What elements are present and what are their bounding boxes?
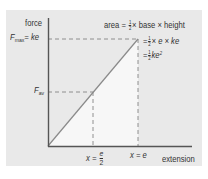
line3-suffix: ke — [152, 50, 160, 60]
area-formula-line1: area = 12× base × height — [104, 20, 185, 31]
half-e-denominator: 2 — [99, 159, 103, 167]
half-fraction-2: 12 — [148, 36, 150, 47]
y-axis-label: force — [25, 19, 42, 28]
half-fraction-3: 12 — [148, 50, 150, 61]
fmax-subscript: max — [15, 37, 25, 43]
fmax-equation: = ke — [24, 32, 39, 42]
line2-suffix: × e × ke — [152, 36, 180, 46]
area-formula-line2: =12× e × ke — [143, 36, 179, 47]
line3-prefix: = — [143, 50, 147, 60]
fav-label: Fav — [34, 86, 44, 96]
area-eq-prefix: area = — [104, 20, 126, 30]
half-e-tick-label: x = e 2 — [86, 150, 104, 167]
half-e-lhs: x = — [86, 153, 96, 163]
half-e-fraction: e 2 — [99, 150, 103, 167]
x-axis-label: extension — [162, 155, 195, 164]
area-formula-line3: =12ke2 — [143, 50, 162, 61]
frac-den: 2 — [148, 56, 150, 61]
frac-den: 2 — [148, 42, 150, 47]
fav-subscript: av — [39, 90, 44, 96]
area-eq-suffix: × base × height — [132, 20, 185, 30]
fmax-label: Fmax= ke — [10, 33, 39, 43]
line2-prefix: = — [143, 36, 147, 46]
squared-exponent: 2 — [160, 50, 162, 56]
e-tick-label: x = e — [130, 151, 147, 160]
frac-den: 2 — [129, 26, 131, 31]
half-fraction-1: 12 — [129, 20, 131, 31]
